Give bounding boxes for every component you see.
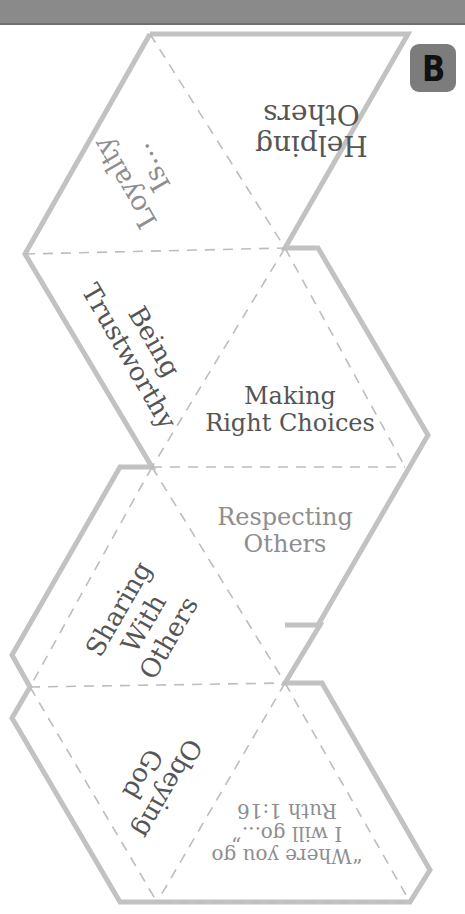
face-text-line: I will go...” [192, 822, 382, 844]
face-helping-others: Helping Others [255, 98, 368, 161]
face-text-line: Making [190, 383, 390, 410]
face-ruth-verse: “Where you go I will go...” Ruth 1:16 [192, 800, 382, 867]
face-text-line: Ruth 1:16 [192, 800, 382, 822]
face-making-right-choices: Making Right Choices [190, 383, 390, 437]
net-outline [12, 34, 430, 902]
face-text-line: “Where you go [192, 845, 382, 867]
section-badge: B [410, 44, 456, 92]
face-text-line: Helping [255, 129, 368, 160]
hexaflexagon-net [0, 0, 465, 914]
fold-lines [25, 34, 410, 902]
face-text-line: Right Choices [190, 410, 390, 437]
face-respecting-others: Respecting Others [200, 504, 370, 558]
face-text-line: Respecting [200, 504, 370, 531]
badge-letter: B [422, 48, 444, 89]
face-text-line: Others [255, 98, 368, 129]
face-text-line: Others [200, 531, 370, 558]
